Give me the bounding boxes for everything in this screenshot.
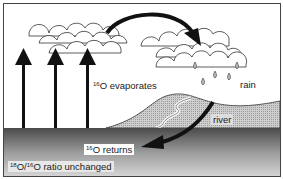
evaporates-label: 16O evaporates xyxy=(93,80,157,91)
returns-label: 16O returns xyxy=(84,144,134,155)
evaporation-arrows xyxy=(15,48,96,128)
river-label: river xyxy=(211,114,233,125)
diagram-frame: 16O evaporates rain river 16O returns 18… xyxy=(3,3,281,177)
ratio-label: 18O/16O ratio unchanged xyxy=(8,161,114,172)
land xyxy=(106,94,280,128)
rain-label: rain xyxy=(240,79,256,90)
